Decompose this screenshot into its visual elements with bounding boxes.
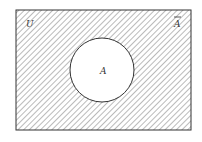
- universe-label: U: [26, 19, 34, 29]
- venn-diagram: U A A: [0, 0, 202, 142]
- complement-label: A: [173, 19, 181, 29]
- set-a-label: A: [99, 66, 107, 76]
